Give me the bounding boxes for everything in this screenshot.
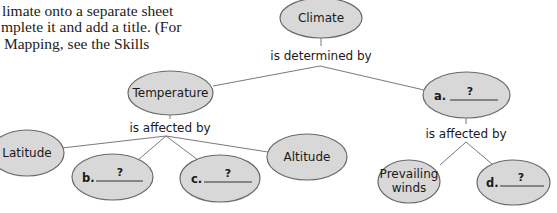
node-altitude: Altitude (267, 134, 347, 180)
connector-a-affected (440, 142, 492, 165)
node-prevailing-winds-line1: Prevailing (380, 167, 439, 181)
connector-determined-by (213, 66, 424, 90)
node-prevailing-winds: Prevailing winds (378, 160, 440, 203)
blank-d-question-mark: ? (518, 171, 524, 184)
node-latitude: Latitude (0, 130, 64, 176)
link-label-a-affected-by: is affected by (425, 127, 506, 141)
node-climate-label: Climate (298, 11, 344, 25)
blank-c-question-mark: ? (225, 167, 231, 180)
blank-d-letter: d. (486, 176, 499, 190)
link-label-temperature-affected-by: is affected by (129, 121, 210, 135)
node-blank-d[interactable]: d. ? (477, 160, 550, 205)
blank-a-letter: a. (434, 89, 446, 103)
node-blank-b[interactable]: b. ? (72, 154, 153, 200)
node-latitude-label: Latitude (2, 146, 51, 160)
connector-affected-outer (62, 136, 268, 152)
concept-map: Climate is determined by Temperature is … (0, 0, 557, 213)
blank-b-letter: b. (82, 171, 95, 185)
node-temperature-label: Temperature (131, 86, 208, 100)
node-climate: Climate (280, 0, 362, 38)
blank-a-question-mark: ? (467, 85, 473, 98)
blank-b-question-mark: ? (117, 166, 123, 179)
node-prevailing-winds-line2: winds (392, 181, 427, 195)
node-blank-a[interactable]: a. ? (423, 72, 510, 118)
node-altitude-label: Altitude (284, 150, 331, 164)
node-temperature: Temperature (128, 71, 213, 115)
link-label-determined-by: is determined by (270, 49, 371, 63)
blank-c-letter: c. (191, 172, 202, 186)
node-blank-c[interactable]: c. ? (180, 155, 260, 202)
